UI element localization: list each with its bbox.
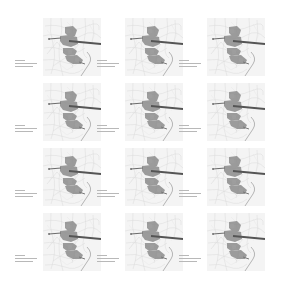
caption-line [179,63,201,64]
caption-line [179,255,189,256]
caption-line [15,190,25,191]
map-panel-r3-c2 [97,148,177,210]
map-panel-r4-c3 [179,213,259,275]
map-panel-r1-c2 [97,18,177,80]
caption-line [97,255,107,256]
caption-line [15,261,33,262]
map-panel-r2-c2 [97,83,177,145]
city-map-graphic [43,148,101,206]
city-map-graphic [125,83,183,141]
city-map-graphic [125,213,183,271]
panel-caption [15,255,39,264]
caption-line [15,128,37,129]
caption-line [179,190,189,191]
map-panel-r2-c3 [179,83,259,145]
caption-line [179,131,197,132]
map-panel-r2-c1 [15,83,95,145]
caption-line [179,196,197,197]
city-map [207,83,265,141]
panel-caption [179,190,203,199]
caption-line [15,63,37,64]
caption-line [97,125,107,126]
city-map-graphic [207,148,265,206]
caption-line [15,196,33,197]
map-panel-r1-c3 [179,18,259,80]
city-map-graphic [43,83,101,141]
caption-line [97,131,115,132]
panel-caption [15,60,39,69]
city-map [207,148,265,206]
caption-line [15,131,33,132]
panel-caption [179,255,203,264]
caption-line [15,125,25,126]
map-panel-r3-c1 [15,148,95,210]
caption-line [97,63,119,64]
map-panel-r3-c3 [179,148,259,210]
city-map [125,83,183,141]
city-map-graphic [207,83,265,141]
panel-caption [179,60,203,69]
city-map-graphic [207,213,265,271]
caption-line [15,66,33,67]
panel-caption [15,190,39,199]
city-map [43,83,101,141]
panel-caption [179,125,203,134]
caption-line [179,60,189,61]
caption-line [15,193,37,194]
caption-line [179,258,201,259]
panel-caption [15,125,39,134]
city-map-graphic [125,18,183,76]
caption-line [97,261,115,262]
caption-line [179,193,201,194]
city-map-graphic [43,18,101,76]
city-map [43,213,101,271]
city-map-graphic [43,213,101,271]
city-map [43,18,101,76]
map-panel-r1-c1 [15,18,95,80]
panel-caption [97,60,121,69]
city-map [43,148,101,206]
city-map-graphic [207,18,265,76]
caption-line [15,60,25,61]
caption-line [97,128,119,129]
caption-line [97,193,119,194]
map-panel-r4-c1 [15,213,95,275]
caption-line [97,60,107,61]
caption-line [15,258,37,259]
city-map [207,18,265,76]
caption-line [97,190,107,191]
city-map [125,148,183,206]
caption-line [15,255,25,256]
caption-line [97,66,115,67]
caption-line [97,258,119,259]
caption-line [179,66,197,67]
panel-caption [97,190,121,199]
city-map [125,213,183,271]
city-map-graphic [125,148,183,206]
caption-line [97,196,115,197]
caption-line [179,128,201,129]
city-map [207,213,265,271]
panel-caption [97,255,121,264]
caption-line [179,261,197,262]
panel-caption [97,125,121,134]
city-map [125,18,183,76]
map-panel-r4-c2 [97,213,177,275]
caption-line [179,125,189,126]
